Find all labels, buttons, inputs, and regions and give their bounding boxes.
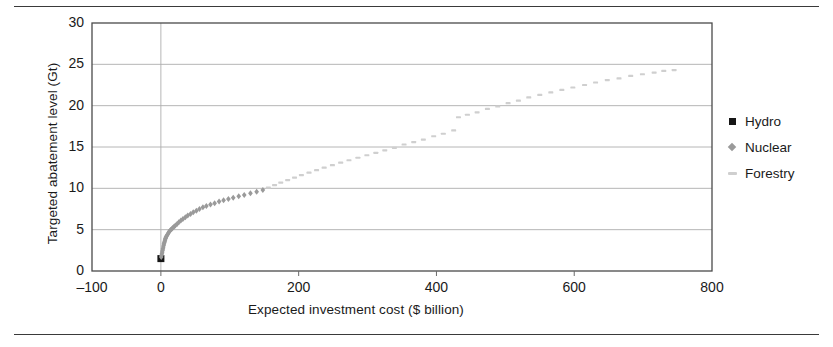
legend-item-hydro[interactable]: Hydro [724,108,830,134]
data-point [495,105,500,107]
data-point [451,129,456,131]
x-tick-label: 0 [131,279,191,295]
data-point [272,184,277,186]
data-point [248,190,253,196]
data-point [421,138,426,140]
legend-item-label: Nuclear [745,140,792,155]
data-point [364,154,369,156]
data-point [548,91,553,93]
data-point [338,162,343,164]
data-point [278,181,283,183]
data-point [204,203,209,209]
data-point [254,189,259,195]
data-point [221,197,226,203]
legend-swatch [728,172,737,175]
data-point [322,167,327,169]
data-point [208,201,213,207]
x-tick-marks [161,271,574,276]
y-tick-label: 30 [44,14,84,30]
data-point [402,143,407,145]
diamond-marker-icon [724,144,740,150]
series-nuclear [159,187,265,260]
data-point [582,84,587,86]
figure-container: Targeted abatement level (Gt) Expected i… [0,0,833,347]
data-point [652,72,657,74]
data-point [411,141,416,143]
legend-swatch [728,143,736,151]
x-tick-label: –100 [62,279,122,295]
data-point [605,79,610,81]
data-point [299,174,304,176]
data-point [506,102,511,104]
y-tick-label: 10 [44,179,84,195]
chart-legend: HydroNuclearForestry [724,108,830,186]
x-axis-title: Expected investment cost ($ billion) [0,302,712,317]
data-point [559,89,564,91]
y-tick-label: 25 [44,55,84,71]
data-point [382,149,387,151]
data-point [231,195,236,201]
legend-swatch [729,118,736,125]
legend-item-nuclear[interactable]: Nuclear [724,134,830,160]
data-point [346,159,351,161]
data-point [672,69,677,71]
data-point [226,196,231,202]
data-point [236,193,241,199]
data-point [526,96,531,98]
data-point [314,169,319,171]
grid-lines [92,23,712,271]
data-point [217,199,222,205]
data-point [373,152,378,154]
data-point [537,94,542,96]
square-marker-icon [724,118,740,125]
x-tick-label: 400 [406,279,466,295]
y-tick-label: 15 [44,138,84,154]
data-point [242,192,247,198]
y-tick-label: 20 [44,97,84,113]
legend-item-forestry[interactable]: Forestry [724,160,830,186]
data-point [330,164,335,166]
data-point [593,81,598,83]
data-point [392,147,397,149]
data-point [628,75,633,77]
y-tick-label: 0 [44,262,84,278]
data-point [570,86,575,88]
data-point [465,114,470,116]
data-point [456,116,461,118]
data-point [292,176,297,178]
data-point [285,179,290,181]
data-point [485,108,490,110]
dash-marker-icon [724,172,740,175]
series-forestry [266,69,677,189]
data-point [516,100,521,102]
x-tick-label: 200 [269,279,329,295]
x-tick-label: 800 [682,279,742,295]
data-point [661,70,666,72]
data-point [441,133,446,135]
data-point [355,157,360,159]
legend-item-label: Forestry [745,166,795,181]
data-point [307,172,312,174]
legend-item-label: Hydro [745,114,781,129]
data-point [640,73,645,75]
x-tick-label: 600 [544,279,604,295]
y-tick-label: 5 [44,221,84,237]
data-point [475,111,480,113]
data-point [617,77,622,79]
data-point [431,135,436,137]
data-point [266,186,271,188]
data-point [212,200,217,206]
